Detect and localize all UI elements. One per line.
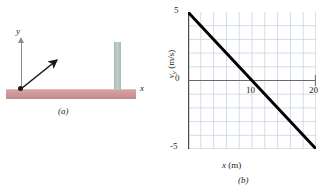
x-axis-symbol: x <box>222 160 226 170</box>
y-axis-line <box>21 41 22 91</box>
x-tick-label-20: 20 <box>309 85 318 95</box>
chart-y-axis-label: vy (m/s) <box>166 34 178 94</box>
panel-a-x-axis-label: x <box>140 83 144 93</box>
physics-figure: y x (a) vy (m/s) <box>0 0 327 193</box>
ground-bar <box>6 89 136 99</box>
chart-x-axis-label: x (m) <box>222 160 241 170</box>
panel-b-caption: (b) <box>238 175 249 185</box>
panel-a-launch-diagram: y x (a) <box>0 0 160 140</box>
panel-b-chart: vy (m/s) <box>160 0 327 193</box>
y-axis-arrow-icon <box>18 37 24 43</box>
origin-dot <box>18 86 23 91</box>
y-tick-label-minus-5: -5 <box>170 141 178 151</box>
panel-a-caption: (a) <box>58 106 69 116</box>
y-axis-units: (m/s) <box>166 50 176 69</box>
x-axis-units: (m) <box>228 160 241 170</box>
y-tick-label-5: 5 <box>174 5 179 15</box>
chart-data-line <box>188 12 316 149</box>
y-tick-label-0: 0 <box>175 73 180 83</box>
vertical-pole <box>114 42 121 90</box>
plot-area: 5 0 -5 10 20 <box>188 12 316 149</box>
velocity-vector-arrow-icon <box>0 0 160 140</box>
panel-a-y-axis-label: y <box>16 26 20 36</box>
x-tick-label-10: 10 <box>246 85 255 95</box>
